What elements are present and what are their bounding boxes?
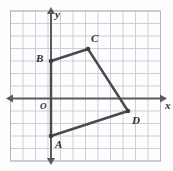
figure-canvas	[0, 0, 173, 171]
x-axis-label: x	[165, 100, 171, 111]
coordinate-plane-figure: A B C D O x y	[0, 0, 173, 171]
x-axis-arrow-left	[6, 95, 13, 103]
vertex-label-d: D	[132, 115, 140, 126]
vertex-label-c: C	[91, 33, 98, 44]
vertex-label-a: A	[55, 139, 62, 150]
y-axis-label: y	[55, 9, 60, 20]
quadrilateral-abcd	[51, 49, 128, 136]
vertex-label-b: B	[36, 53, 43, 64]
grid-lines	[11, 11, 161, 161]
origin-label: O	[40, 101, 47, 112]
